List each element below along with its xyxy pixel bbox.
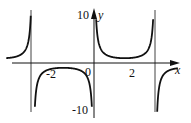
curve-branch <box>96 19 153 58</box>
x-tick-minus-2: -2 <box>46 67 56 81</box>
curve-branch <box>35 68 92 107</box>
x-axis-label: x <box>174 63 181 77</box>
chart: 10 y -2 0 2 x -10 <box>0 0 191 123</box>
y-tick-10: 10 <box>77 8 89 22</box>
origin-label: 0 <box>85 65 91 79</box>
function-curves <box>6 16 178 112</box>
x-tick-2: 2 <box>129 66 135 80</box>
curve-branch <box>6 16 31 58</box>
y-axis-label: y <box>97 8 104 22</box>
y-tick-minus-10: -10 <box>72 103 88 117</box>
y-axis-arrow-icon <box>91 8 97 19</box>
